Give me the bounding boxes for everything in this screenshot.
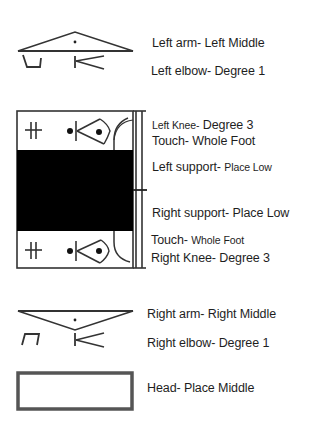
label-left-arm: Left arm- Left Middle <box>152 36 265 50</box>
right-touch-whole-foot-icon <box>114 231 130 262</box>
label-left-touch: Touch- Whole Foot <box>152 134 255 148</box>
label-right-elbow: Right elbow- Degree 1 <box>147 336 269 350</box>
label-left-support: Left support- Place Low <box>152 160 272 174</box>
label-right-knee: Right Knee- Degree 3 <box>151 251 270 265</box>
left-touch-whole-foot-icon <box>114 118 133 150</box>
label-right-support: Right support- Place Low <box>152 206 289 220</box>
left-knee-sign-icon <box>25 122 42 139</box>
right-knee-sign-icon <box>25 242 42 259</box>
label-right-arm: Right arm- Right Middle <box>147 307 276 321</box>
label-left-elbow: Left elbow- Degree 1 <box>151 64 265 78</box>
label-head: Head- Place Middle <box>147 381 254 395</box>
right-elbow-degree-icon <box>75 333 104 347</box>
left-arm-direction-icon <box>18 32 133 51</box>
left-elbow-sign-icon <box>23 55 41 67</box>
support-place-low-block <box>17 150 133 231</box>
left-elbow-degree-icon <box>75 56 104 69</box>
right-knee-degree-icon <box>67 240 109 263</box>
head-place-middle-icon <box>18 373 132 409</box>
label-left-knee: Left Knee- Degree 3 <box>152 118 253 132</box>
right-elbow-sign-icon <box>22 334 39 345</box>
label-right-touch: Touch- Whole Foot <box>151 233 244 247</box>
right-arm-direction-icon <box>18 311 133 330</box>
left-knee-degree-icon <box>67 119 110 144</box>
